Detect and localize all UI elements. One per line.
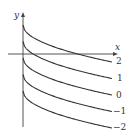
curve-label-neg1: −1 <box>113 107 126 116</box>
curve-family <box>23 25 112 128</box>
curve-label-0: 0 <box>116 91 122 100</box>
chart-canvas <box>0 0 137 140</box>
y-axis-label: y <box>14 11 19 20</box>
curve-label-2: 2 <box>116 57 122 66</box>
curve-label-1: 1 <box>117 74 123 83</box>
curve-C--2 <box>23 91 112 128</box>
curve-label-neg2: −2 <box>113 123 126 132</box>
x-axis-label: x <box>115 43 120 52</box>
y-axis-arrow-icon <box>21 12 25 17</box>
